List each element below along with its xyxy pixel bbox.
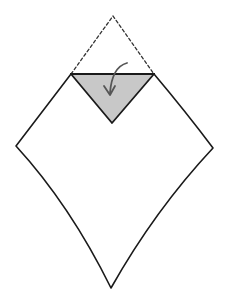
diagram-canvas bbox=[0, 0, 229, 306]
original-corner-dashed-outline bbox=[71, 16, 154, 74]
origami-fold-diagram: Origami step: fold top corner down bbox=[0, 0, 229, 306]
